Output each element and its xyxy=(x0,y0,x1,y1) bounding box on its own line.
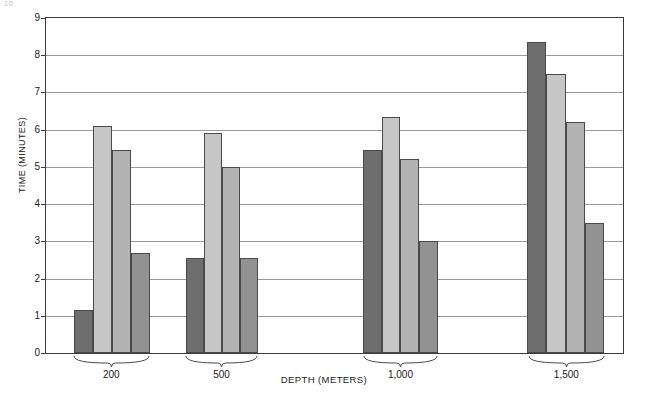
bar xyxy=(566,122,585,353)
corner-artifact-text: 10 xyxy=(4,0,20,7)
y-tick-label: 3 xyxy=(34,236,40,246)
y-tick-mark xyxy=(41,353,46,354)
x-axis-title: DEPTH (METERS) xyxy=(0,374,648,385)
bar xyxy=(222,167,240,353)
bar xyxy=(112,150,131,353)
bar xyxy=(585,223,604,353)
bar xyxy=(419,241,438,353)
y-tick-label: 1 xyxy=(34,311,40,321)
y-tick-label: 7 xyxy=(34,87,40,97)
bar xyxy=(93,126,112,353)
y-tick-label: 6 xyxy=(34,125,40,135)
y-tick-label: 2 xyxy=(34,274,40,284)
bar xyxy=(363,150,382,353)
y-tick-label: 0 xyxy=(34,348,40,358)
bar xyxy=(400,159,419,353)
y-tick-label: 8 xyxy=(34,50,40,60)
bar xyxy=(204,133,222,353)
bars-layer xyxy=(46,18,623,353)
group-brace xyxy=(528,356,605,367)
y-tick-label: 4 xyxy=(34,199,40,209)
bar xyxy=(240,258,258,353)
bar-chart-figure: 10 TIME (MINUTES) 0123456789 2005001,000… xyxy=(0,0,648,396)
bar xyxy=(382,117,401,353)
bar xyxy=(186,258,204,353)
y-axis-title: TIME (MINUTES) xyxy=(17,65,27,245)
bar xyxy=(546,74,565,353)
bar xyxy=(74,310,93,353)
bar xyxy=(527,42,546,353)
bar xyxy=(131,253,150,354)
group-brace xyxy=(73,356,150,367)
plot-area: 0123456789 xyxy=(45,17,624,354)
y-tick-label: 9 xyxy=(34,13,40,23)
group-brace xyxy=(185,356,258,367)
y-tick-label: 5 xyxy=(34,162,40,172)
group-brace xyxy=(363,356,438,367)
